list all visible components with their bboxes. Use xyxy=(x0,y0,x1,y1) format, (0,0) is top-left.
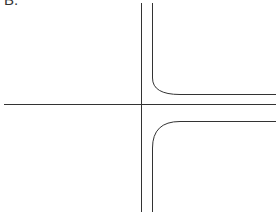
upper-branch-edge xyxy=(153,3,277,95)
t-junction-diagram xyxy=(0,0,279,215)
lower-branch-edge xyxy=(153,122,277,213)
